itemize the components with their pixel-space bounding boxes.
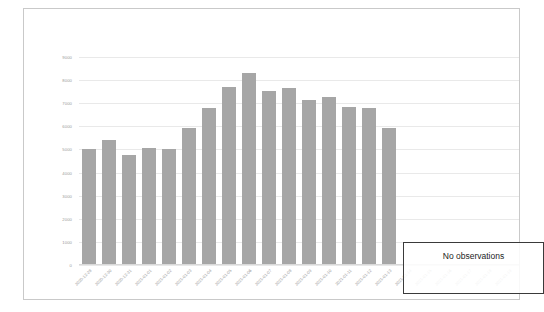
bar-slot — [199, 57, 219, 265]
bar-slot — [279, 57, 299, 265]
bar — [102, 140, 117, 265]
x-tick-slot: 2021-01-06 — [239, 266, 259, 310]
x-tick-slot: 2021-01-05 — [219, 266, 239, 310]
bar-slot — [379, 57, 399, 265]
figure-frame: 9000800070006000500040003000200010000 20… — [23, 8, 520, 300]
bar — [82, 149, 97, 265]
x-tick-slot: 2020-12-28 — [79, 266, 99, 310]
plot-area — [79, 57, 519, 265]
no-observations-annotation: No observations — [403, 242, 544, 294]
bar — [382, 128, 397, 266]
y-axis-tick-label: 8000 — [62, 78, 72, 83]
bar-slot — [239, 57, 259, 265]
bar-slot — [439, 57, 459, 265]
bar — [342, 107, 357, 265]
y-axis-tick-label: 6000 — [62, 124, 72, 129]
no-observations-label: No observations — [404, 251, 543, 261]
bar-slot — [419, 57, 439, 265]
x-tick-slot: 2021-01-07 — [259, 266, 279, 310]
bar-slot — [479, 57, 499, 265]
bar — [162, 149, 177, 265]
bar-slot — [179, 57, 199, 265]
bar — [122, 155, 137, 265]
bar-series — [79, 57, 519, 265]
bar-slot — [99, 57, 119, 265]
x-tick-slot: 2021-01-04 — [199, 266, 219, 310]
y-axis-tick-label: 3000 — [62, 193, 72, 198]
bar-slot — [299, 57, 319, 265]
bar — [322, 97, 337, 265]
y-axis-tick-label: 2000 — [62, 216, 72, 221]
bar-slot — [219, 57, 239, 265]
bar-slot — [259, 57, 279, 265]
bar — [262, 91, 277, 265]
x-tick-slot: 2020-12-30 — [99, 266, 119, 310]
bar — [202, 108, 217, 265]
y-axis-tick-label: 0 — [70, 263, 72, 268]
y-axis-tick-label: 7000 — [62, 101, 72, 106]
y-axis-tick-labels: 9000800070006000500040003000200010000 — [24, 57, 76, 265]
x-axis-tick-label: 2020-12-28 — [74, 268, 93, 287]
x-tick-slot: 2021-01-08 — [279, 266, 299, 310]
bar — [222, 87, 237, 265]
bar — [302, 100, 317, 265]
x-tick-slot: 2021-01-10 — [319, 266, 339, 310]
bar — [282, 88, 297, 265]
x-tick-slot: 2021-01-12 — [359, 266, 379, 310]
bar — [242, 73, 257, 265]
bar-slot — [139, 57, 159, 265]
bar — [142, 148, 157, 265]
bar-slot — [359, 57, 379, 265]
y-axis-tick-label: 9000 — [62, 55, 72, 60]
bar-slot — [339, 57, 359, 265]
x-tick-slot: 2021-01-09 — [299, 266, 319, 310]
x-tick-slot: 2021-01-11 — [339, 266, 359, 310]
y-axis-tick-label: 1000 — [62, 239, 72, 244]
bar-slot — [319, 57, 339, 265]
bar — [182, 128, 197, 266]
x-tick-slot: 2021-01-01 — [139, 266, 159, 310]
bar-slot — [459, 57, 479, 265]
x-tick-slot: 2021-01-03 — [179, 266, 199, 310]
bar-slot — [119, 57, 139, 265]
bar-slot — [79, 57, 99, 265]
y-axis-tick-label: 5000 — [62, 147, 72, 152]
x-tick-slot: 2021-01-02 — [159, 266, 179, 310]
bar-slot — [499, 57, 519, 265]
bar-slot — [159, 57, 179, 265]
x-tick-slot: 2020-12-31 — [119, 266, 139, 310]
y-axis-tick-label: 4000 — [62, 170, 72, 175]
bar-slot — [399, 57, 419, 265]
x-tick-slot: 2021-01-13 — [379, 266, 399, 310]
bar — [362, 108, 377, 265]
